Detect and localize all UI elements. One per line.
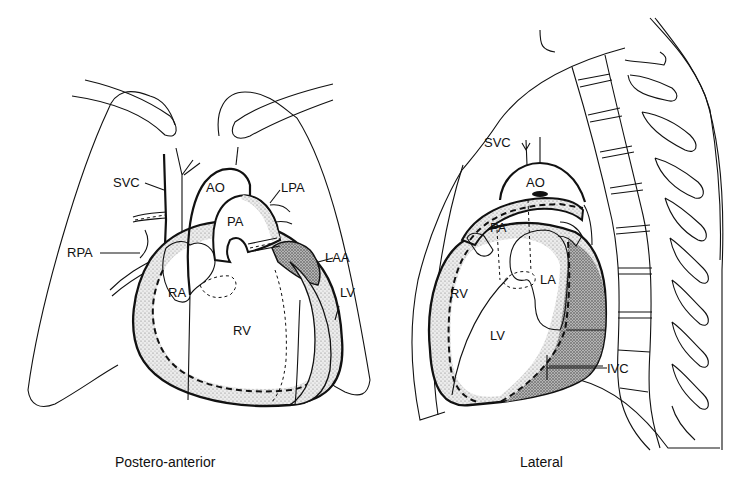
label-pa-pa: PA	[227, 214, 244, 229]
right-lung-apex	[108, 92, 175, 125]
label-pa-lat: PA	[490, 220, 507, 235]
label-svc-lat: SVC	[484, 135, 511, 150]
label-ra-pa: RA	[168, 285, 186, 300]
postero-anterior-panel: SVC AO LPA PA RPA LAA RA LV RV Postero-a…	[28, 80, 370, 470]
right-clavicle	[72, 80, 176, 136]
caption-lateral: Lateral	[520, 454, 563, 470]
label-laa-pa: LAA	[325, 250, 350, 265]
label-la-lat: LA	[540, 272, 556, 287]
posterior-ribs	[625, 52, 708, 440]
svc-pointer-line	[145, 183, 164, 190]
label-lv-lat: LV	[490, 328, 505, 343]
back-inner-outline	[655, 18, 721, 260]
label-ao-pa: AO	[206, 180, 225, 195]
left-lung-apex	[218, 92, 297, 136]
label-ao-lat: AO	[526, 175, 545, 190]
lpa-pointer-line	[270, 190, 280, 203]
label-lv-pa: LV	[340, 285, 355, 300]
label-svc-pa: SVC	[113, 175, 140, 190]
label-rv-lat: RV	[450, 286, 468, 301]
label-rv-pa: RV	[233, 323, 251, 338]
caption-postero-anterior: Postero-anterior	[115, 454, 216, 470]
label-ivc-lat: IVC	[607, 361, 629, 376]
label-rpa-pa: RPA	[67, 245, 93, 260]
aortic-branch	[236, 147, 238, 165]
svc-lateral-vessel	[522, 137, 540, 165]
aortic-valve-mark	[532, 191, 548, 197]
lateral-panel: SVC AO PA RV LA LV IVC Lateral	[412, 18, 723, 470]
heart-diagram-figure: SVC AO LPA PA RPA LAA RA LV RV Postero-a…	[0, 0, 741, 487]
label-lpa-pa: LPA	[281, 180, 305, 195]
